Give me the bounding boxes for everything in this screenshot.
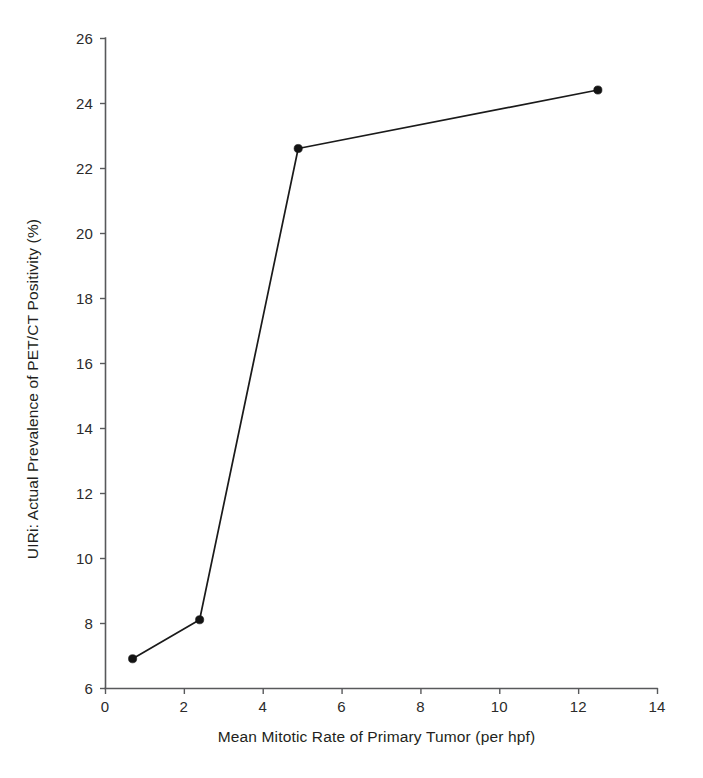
y-tick-label: 18: [57, 290, 93, 307]
plot-area: [0, 0, 703, 778]
x-tick-label: 14: [649, 698, 666, 715]
x-tick-label: 0: [101, 698, 109, 715]
y-tick-label: 20: [57, 225, 93, 242]
y-tick-label: 22: [57, 160, 93, 177]
y-tick-label: 24: [57, 95, 93, 112]
data-point: [129, 655, 137, 663]
y-tick-label: 12: [57, 485, 93, 502]
x-tick-label: 4: [258, 698, 266, 715]
data-point: [594, 86, 602, 94]
x-tick-label: 12: [570, 698, 587, 715]
y-tick-label: 16: [57, 355, 93, 372]
y-tick-label: 8: [57, 615, 93, 632]
y-tick-label: 6: [57, 680, 93, 697]
y-tick-label: 10: [57, 550, 93, 567]
data-point: [196, 616, 204, 624]
series-line-0: [133, 90, 598, 659]
y-tick-marks: [100, 39, 105, 689]
x-tick-label: 8: [416, 698, 424, 715]
x-tick-label: 10: [491, 698, 508, 715]
axes: [105, 38, 657, 689]
chart-figure: 68101214161820222426 02468101214 UIRi: A…: [0, 0, 703, 778]
y-tick-label: 14: [57, 420, 93, 437]
y-tick-label: 26: [57, 30, 93, 47]
x-tick-label: 6: [337, 698, 345, 715]
series-markers-0: [129, 86, 602, 663]
x-tick-label: 2: [180, 698, 188, 715]
y-axis-title: UIRi: Actual Prevalence of PET/CT Positi…: [24, 219, 42, 559]
data-point: [294, 144, 302, 152]
x-axis-title: Mean Mitotic Rate of Primary Tumor (per …: [0, 728, 703, 746]
